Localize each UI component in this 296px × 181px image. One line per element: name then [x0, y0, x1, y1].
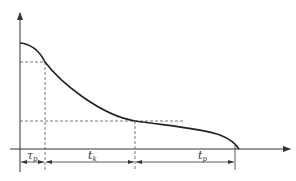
label-t-k: tk [88, 149, 97, 163]
label-t-p: tp [198, 149, 207, 163]
decay-curve [20, 43, 239, 149]
label-tau-p: τp [27, 149, 38, 163]
diagram-canvas: τp tk tp [0, 0, 296, 181]
dashed-guides [20, 62, 185, 170]
